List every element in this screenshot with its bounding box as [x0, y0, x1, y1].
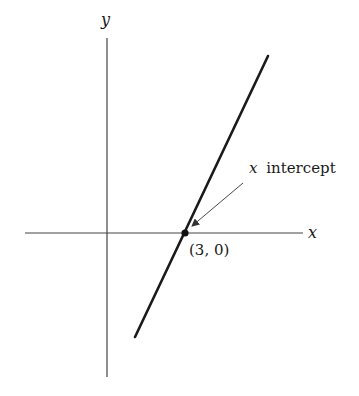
- intercept-point: [181, 229, 188, 236]
- annotation-arrow: [192, 183, 243, 226]
- graph-canvas: y x x intercept (3, 0): [0, 0, 359, 396]
- intercept-annotation: x intercept: [249, 159, 336, 177]
- x-axis-label: x: [308, 223, 317, 242]
- graph-line: [135, 56, 268, 337]
- y-axis-label: y: [100, 10, 111, 29]
- annotation-var: x: [249, 159, 258, 177]
- annotation-text: intercept: [266, 159, 335, 177]
- point-label: (3, 0): [189, 241, 229, 259]
